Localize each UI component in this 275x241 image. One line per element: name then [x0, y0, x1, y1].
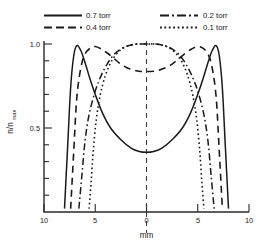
chart-canvas: 0.7 torr 0.4 torr 0.2 torr 0.1 torr 1.0 …	[0, 0, 275, 241]
legend-entry-3: 0.1 torr	[160, 23, 228, 32]
legend-label-1: 0.4 torr	[86, 23, 111, 32]
legend-label-3: 0.1 torr	[203, 23, 228, 32]
legend-label-0: 0.7 torr	[86, 11, 111, 20]
y-axis-ticks	[44, 44, 52, 195]
x-tick-label-4: 10	[245, 216, 253, 225]
y-axis-label-sub: max	[11, 110, 17, 121]
y-tick-labels: 1.0 0.5	[30, 40, 40, 133]
legend-entry-0: 0.7 torr	[44, 11, 111, 20]
y-axis-label-main: n/n	[6, 122, 15, 134]
legend-label-2: 0.2 torr	[203, 11, 228, 20]
x-tick-label-0: 10	[40, 216, 48, 225]
y-axis-label: n/n max	[6, 110, 17, 134]
legend-entry-1: 0.4 torr	[44, 23, 111, 32]
legend-entry-2: 0.2 torr	[160, 11, 228, 20]
x-tick-label-1: 5	[93, 216, 97, 225]
figure-plasma-density-profile: 0.7 torr 0.4 torr 0.2 torr 0.1 torr 1.0 …	[0, 0, 275, 241]
y-tick-label-1: 1.0	[30, 40, 40, 49]
y-tick-label-0: 0.5	[30, 124, 40, 133]
x-tick-label-3: 5	[196, 216, 200, 225]
legend: 0.7 torr 0.4 torr 0.2 torr 0.1 torr	[44, 11, 228, 32]
